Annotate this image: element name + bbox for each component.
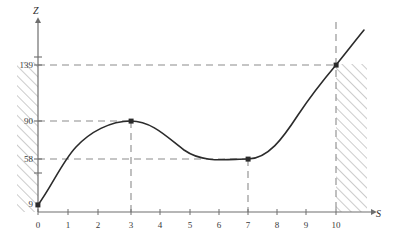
point-marker-boundary-right [334,63,339,68]
point-marker-local-minimum [246,157,251,162]
x-axis-title: S [376,208,381,219]
point-marker-start [35,202,40,207]
x-tick-label-6: 6 [217,220,222,230]
x-tick-label-1: 1 [66,220,71,230]
x-tick-label-2: 2 [96,220,101,230]
y-tick-label-90: 90 [24,116,34,126]
x-tick-label-3: 3 [129,220,134,230]
x-tick-label-7: 7 [246,220,251,230]
x-tick-label-0: 0 [36,220,41,230]
x-tick-label-4: 4 [158,220,163,230]
curve-path [38,30,364,205]
x-tick-label-5: 5 [188,220,193,230]
x-tick-label-8: 8 [275,220,280,230]
y-axis-title: Z [33,5,39,16]
x-tick-label-10: 10 [332,220,342,230]
left-infeasible-region [17,62,38,212]
y-tick-label-58: 58 [24,154,34,164]
function-plot: Z S 139 90 58 9 0 1 2 3 4 5 6 7 8 9 10 [0,0,400,235]
marked-points [35,63,338,208]
figure-container: Z S 139 90 58 9 0 1 2 3 4 5 6 7 8 9 10 [0,0,400,235]
y-tick-label-9: 9 [29,199,34,209]
axes [38,22,372,212]
right-infeasible-region [336,64,367,212]
point-marker-local-maximum [129,119,134,124]
y-tick-label-139: 139 [20,60,34,70]
guide-lines [38,22,336,212]
x-tick-label-9: 9 [304,220,309,230]
hatched-regions [17,62,367,212]
